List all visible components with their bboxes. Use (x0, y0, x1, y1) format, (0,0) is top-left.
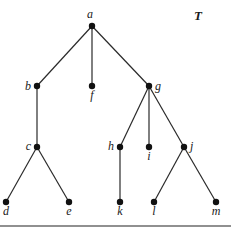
node-label-k: k (117, 204, 123, 218)
edge-j-m (184, 147, 216, 202)
edge-a-b (37, 26, 92, 86)
tree-diagram: T abfgchijdeklm (0, 0, 231, 230)
node-label-f: f (90, 88, 95, 102)
node-c (34, 144, 40, 150)
edge-g-h (120, 86, 149, 147)
tree-title: T (194, 8, 203, 23)
node-g (146, 83, 152, 89)
edge-j-l (154, 147, 184, 202)
edge-g-j (149, 86, 184, 147)
tree-labels: abfgchijdeklm (3, 7, 221, 218)
node-a (89, 23, 95, 29)
edge-c-d (6, 147, 37, 202)
node-label-e: e (66, 204, 72, 218)
node-h (117, 144, 123, 150)
node-label-a: a (87, 7, 93, 21)
edge-c-e (37, 147, 69, 202)
node-label-l: l (152, 204, 156, 218)
node-j (181, 144, 187, 150)
node-label-h: h (108, 139, 114, 153)
tree-edges (6, 26, 216, 202)
node-label-d: d (3, 204, 10, 218)
node-label-i: i (147, 149, 150, 163)
node-label-g: g (155, 79, 161, 93)
node-label-j: j (188, 139, 194, 153)
tree-nodes (3, 23, 219, 205)
node-label-c: c (26, 139, 32, 153)
node-label-b: b (25, 79, 31, 93)
node-b (34, 83, 40, 89)
edge-a-g (92, 26, 149, 86)
node-label-m: m (212, 204, 221, 218)
